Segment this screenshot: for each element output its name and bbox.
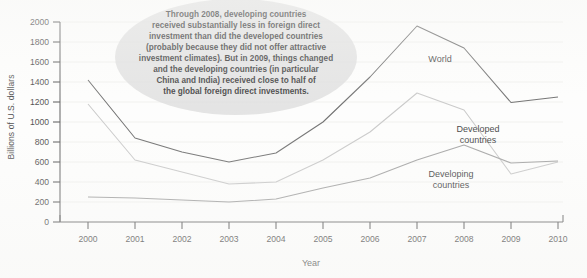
x-tick-label: 2006 xyxy=(360,234,379,244)
x-tick-label: 2001 xyxy=(125,234,144,244)
callout-line: received substantially less in foreign d… xyxy=(152,21,320,30)
y-tick-label: 600 xyxy=(35,157,50,167)
series-label-developing-2: countries xyxy=(433,180,470,190)
y-tick-label: 800 xyxy=(35,137,50,147)
y-tick-label: 1600 xyxy=(30,57,49,67)
x-tick-label: 2000 xyxy=(78,234,97,244)
x-axis-tick-labels: 2000 2001 2002 2003 2004 2005 2006 2007 … xyxy=(78,234,567,244)
series-label-developed-1: Developed xyxy=(456,124,499,134)
y-tick-label: 1200 xyxy=(30,97,49,107)
series-line-developing-countries xyxy=(88,145,558,202)
series-label-developed-2: countries xyxy=(460,135,497,145)
x-tick-label: 2003 xyxy=(219,234,238,244)
series-label-developing-1: Developing xyxy=(428,169,473,179)
y-tick-label: 400 xyxy=(35,177,50,187)
chart-svg: 2000 1800 1600 1400 1200 1000 800 600 40… xyxy=(0,0,587,278)
x-tick-label: 2007 xyxy=(407,234,426,244)
callout-line: and the developing countries (in particu… xyxy=(153,65,319,74)
x-tick-label: 2010 xyxy=(548,234,567,244)
y-tick-label: 0 xyxy=(44,217,49,227)
annotation-callout: Through 2008, developing countries recei… xyxy=(115,0,357,115)
x-tick-label: 2004 xyxy=(266,234,285,244)
y-tick-label: 1400 xyxy=(30,77,49,87)
callout-line: Through 2008, developing countries xyxy=(166,10,307,19)
y-tick-label: 1800 xyxy=(30,37,49,47)
callout-line: (probably because they did not offer att… xyxy=(146,43,327,52)
callout-line: investment climates). But in 2009, thing… xyxy=(139,54,333,63)
y-tick-label: 2000 xyxy=(30,17,49,27)
x-tick-label: 2002 xyxy=(172,234,191,244)
callout-line: investment than did the developed countr… xyxy=(149,32,323,41)
y-axis-tick-labels: 2000 1800 1600 1400 1200 1000 800 600 40… xyxy=(30,17,49,227)
x-tick-label: 2005 xyxy=(313,234,332,244)
chart-container: Billions of U.S. dollars xyxy=(0,0,587,278)
callout-line: China and India) received close to half … xyxy=(156,76,316,85)
x-tick-label: 2009 xyxy=(501,234,520,244)
y-tick-label: 1000 xyxy=(30,117,49,127)
x-tick-label: 2008 xyxy=(454,234,473,244)
y-tick-label: 200 xyxy=(35,197,50,207)
x-axis-title: Year xyxy=(302,258,320,268)
y-axis xyxy=(53,22,60,222)
series-label-world: World xyxy=(428,54,451,64)
callout-line: the global foreign direct investments. xyxy=(163,87,309,96)
x-axis xyxy=(60,215,563,229)
